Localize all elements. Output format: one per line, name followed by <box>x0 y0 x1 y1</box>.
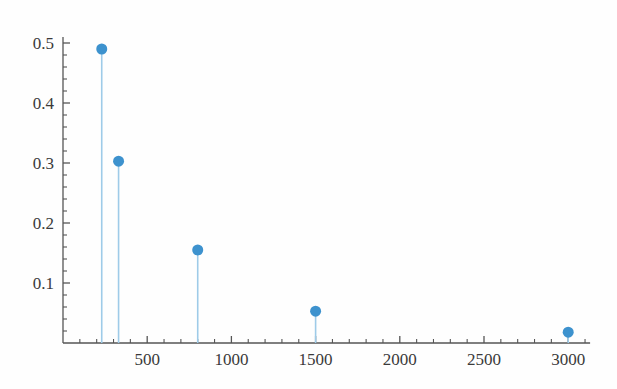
chart-figure: 0.10.20.30.40.550010001500200025003000 <box>0 0 617 389</box>
data-point-marker[interactable] <box>310 306 321 317</box>
data-point-marker[interactable] <box>96 44 107 55</box>
x-axis-tick-label: 1000 <box>214 350 248 369</box>
stem-plot-svg: 0.10.20.30.40.550010001500200025003000 <box>0 0 617 389</box>
y-axis-tick-label: 0.4 <box>33 94 55 113</box>
y-axis-tick-label: 0.3 <box>33 154 54 173</box>
y-axis-tick-label: 0.2 <box>33 214 54 233</box>
x-axis-tick-label: 3000 <box>551 350 585 369</box>
x-axis-tick-label: 2500 <box>467 350 501 369</box>
x-axis-tick-label: 1500 <box>299 350 333 369</box>
data-point-marker[interactable] <box>192 245 203 256</box>
x-axis-tick-label: 500 <box>134 350 160 369</box>
data-point-marker[interactable] <box>563 327 574 338</box>
data-point-marker[interactable] <box>113 156 124 167</box>
x-axis-tick-label: 2000 <box>383 350 417 369</box>
y-axis-tick-label: 0.1 <box>33 274 54 293</box>
y-axis-tick-label: 0.5 <box>33 34 54 53</box>
